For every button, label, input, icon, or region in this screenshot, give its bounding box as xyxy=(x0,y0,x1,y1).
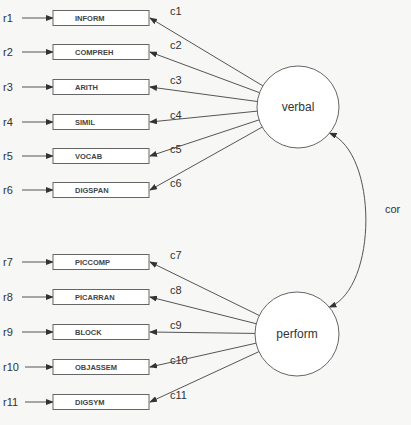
loading-arrow xyxy=(150,111,257,122)
loading-label: c2 xyxy=(170,39,182,51)
indicator-objassem: OBJASSEM xyxy=(53,360,149,375)
error-term-label: r8 xyxy=(3,291,13,303)
error-term-label: r4 xyxy=(3,116,13,128)
loading-label: c10 xyxy=(170,354,188,366)
indicator-digspan: DIGSPAN xyxy=(53,183,149,198)
loading-label: c6 xyxy=(170,177,182,189)
indicator-box xyxy=(53,80,149,95)
loading-arrow xyxy=(150,297,256,324)
loading-label: c4 xyxy=(170,109,182,121)
indicator-label: DIGSPAN xyxy=(75,186,109,195)
indicator-simil: SIMIL xyxy=(53,115,149,130)
indicator-box xyxy=(53,115,149,130)
indicator-label: BLOCK xyxy=(75,328,102,337)
loading-arrow xyxy=(150,127,262,190)
indicator-picarran: PICARRAN xyxy=(53,290,149,305)
error-term-label: r9 xyxy=(3,326,13,338)
indicator-label: DIGSYM xyxy=(75,398,105,407)
error-term-label: r3 xyxy=(3,81,13,93)
loading-arrow xyxy=(150,87,257,102)
loading-arrow xyxy=(150,343,256,367)
loading-arrow xyxy=(150,332,255,333)
loading-label: c8 xyxy=(170,284,182,296)
indicator-label: VOCAB xyxy=(75,152,103,161)
error-term-label: r6 xyxy=(3,184,13,196)
indicator-inform: INFORM xyxy=(53,11,149,26)
error-term-label: r11 xyxy=(3,396,18,408)
indicator-compreh: COMPREH xyxy=(53,45,149,60)
indicator-digsym: DIGSYM xyxy=(53,395,149,410)
loading-label: c9 xyxy=(170,319,182,331)
loading-arrow xyxy=(150,262,259,316)
loading-label: c11 xyxy=(170,389,187,401)
error-term-label: r1 xyxy=(3,12,13,24)
loading-arrow xyxy=(150,352,259,402)
indicator-vocab: VOCAB xyxy=(53,149,149,164)
indicator-block: BLOCK xyxy=(53,325,149,340)
error-term-label: r10 xyxy=(3,361,19,373)
indicator-label: SIMIL xyxy=(75,118,95,127)
error-term-label: r2 xyxy=(3,46,13,58)
loading-label: c7 xyxy=(170,249,182,261)
loading-arrow xyxy=(150,52,260,93)
indicator-label: PICARRAN xyxy=(75,293,115,302)
indicator-label: PICCOMP xyxy=(75,258,110,267)
indicator-label: INFORM xyxy=(75,14,105,23)
loading-label: c3 xyxy=(170,74,182,86)
latent-factor-label: perform xyxy=(276,327,317,341)
path-diagram: INFORMCOMPREHARITHSIMILVOCABDIGSPANPICCO… xyxy=(0,0,411,425)
indicator-label: COMPREH xyxy=(75,48,113,57)
error-term-label: r7 xyxy=(3,256,13,268)
indicator-label: ARITH xyxy=(75,83,98,92)
latent-factor-label: verbal xyxy=(282,100,315,114)
loading-label: c1 xyxy=(170,5,182,17)
loading-arrow xyxy=(150,18,263,86)
covariance-arrow xyxy=(329,133,366,307)
loading-label: c5 xyxy=(170,143,182,155)
indicator-piccomp: PICCOMP xyxy=(53,255,149,270)
error-term-label: r5 xyxy=(3,150,13,162)
indicator-label: OBJASSEM xyxy=(75,363,117,372)
covariance-label: cor xyxy=(385,203,401,215)
indicator-arith: ARITH xyxy=(53,80,149,95)
